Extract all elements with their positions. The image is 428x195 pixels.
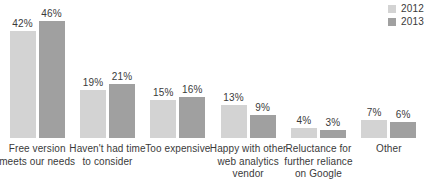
bar-value-label: 13% [223, 92, 244, 103]
legend-item-2013[interactable]: 2013 [388, 16, 424, 27]
bar-value-label: 7% [367, 107, 382, 118]
bar-wrap-2012: 19% [80, 0, 106, 138]
bar-2012[interactable] [361, 120, 387, 138]
bar-wrap-2012: 4% [291, 0, 317, 138]
grouped-bar-chart: 42% 46% Free version meets our needs 19%… [0, 0, 428, 195]
bar-2013[interactable] [109, 84, 135, 138]
legend-swatch-2013 [388, 18, 396, 26]
bar-2012[interactable] [10, 31, 36, 138]
bar-2012[interactable] [80, 90, 106, 138]
legend-label: 2013 [401, 17, 424, 27]
bar-group-bars: 19% 21% [72, 0, 142, 138]
bar-2013[interactable] [39, 21, 65, 138]
bar-wrap-2012: 13% [221, 0, 247, 138]
legend-swatch-2012 [388, 5, 396, 13]
bar-group-bars: 4% 3% [283, 0, 353, 138]
bar-group-havent-had-time: 19% 21% Haven't had time to consider [72, 0, 142, 195]
bar-group-bars: 15% 16% [143, 0, 213, 138]
plot-area: 42% 46% Free version meets our needs 19%… [0, 0, 428, 195]
bar-value-label: 19% [83, 77, 104, 88]
bar-wrap-2012: 15% [150, 0, 176, 138]
bar-group-free-version: 42% 46% Free version meets our needs [2, 0, 72, 195]
bar-group-happy-other-vendor: 13% 9% Happy with other web analytics ve… [213, 0, 283, 195]
bar-group-bars: 42% 46% [2, 0, 72, 138]
bar-wrap-2013: 16% [179, 0, 205, 138]
bar-2013[interactable] [250, 115, 276, 138]
bar-wrap-2012: 42% [10, 0, 36, 138]
bar-wrap-2013: 21% [109, 0, 135, 138]
chart-legend: 2012 2013 [388, 3, 424, 27]
bar-group-other: 7% 6% Other [354, 0, 424, 195]
bar-value-label: 15% [153, 87, 174, 98]
bar-2013[interactable] [179, 97, 205, 138]
bar-value-label: 9% [255, 102, 270, 113]
bar-value-label: 6% [396, 109, 411, 120]
bar-value-label: 3% [326, 117, 341, 128]
bar-wrap-2013: 46% [39, 0, 65, 138]
bar-2012[interactable] [150, 100, 176, 138]
bar-2013[interactable] [390, 122, 416, 138]
bar-value-label: 4% [297, 115, 312, 126]
bar-value-label: 42% [12, 18, 33, 29]
bar-2012[interactable] [221, 105, 247, 138]
bar-2012[interactable] [291, 128, 317, 138]
bar-value-label: 46% [41, 8, 62, 19]
bar-wrap-2013: 3% [320, 0, 346, 138]
bar-wrap-2012: 7% [361, 0, 387, 138]
bar-wrap-2013: 9% [250, 0, 276, 138]
bar-group-reluctance-google: 4% 3% Reluctance for further reliance on… [283, 0, 353, 195]
bar-group-bars: 13% 9% [213, 0, 283, 138]
legend-item-2012[interactable]: 2012 [388, 3, 424, 14]
legend-label: 2012 [401, 4, 424, 14]
bar-value-label: 21% [112, 71, 133, 82]
bar-value-label: 16% [182, 84, 203, 95]
bar-group-too-expensive: 15% 16% Too expensive [143, 0, 213, 195]
bar-2013[interactable] [320, 130, 346, 138]
category-label: Other [348, 143, 428, 156]
